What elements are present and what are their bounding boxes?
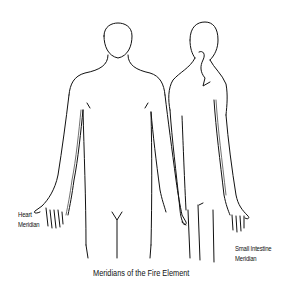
small-intestine-meridian-label: Small Intestine Meridian [235, 244, 271, 264]
label-line: Heart [18, 210, 39, 220]
label-line: Meridian [18, 220, 39, 230]
label-line: Small Intestine [235, 244, 271, 254]
front-body-figure [34, 23, 186, 258]
back-body-figure [169, 22, 249, 262]
heart-meridian-label: Heart Meridian [18, 210, 39, 230]
diagram-caption: Meridians of the Fire Element [93, 268, 189, 278]
label-line: Meridian [235, 254, 271, 264]
